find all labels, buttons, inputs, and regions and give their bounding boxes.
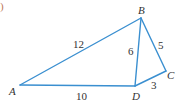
edge-AB	[20, 18, 141, 85]
length-label-BD: 6	[128, 45, 134, 57]
length-label-AD: 10	[76, 90, 88, 102]
vertex-label-B: B	[138, 4, 145, 16]
vertex-label-D: D	[131, 90, 140, 102]
length-label-DC: 3	[151, 79, 157, 91]
vertex-label-A: A	[8, 85, 16, 97]
part-marker: )	[0, 0, 4, 13]
length-label-BC: 5	[158, 39, 164, 51]
edge-AD	[20, 85, 135, 86]
triangle-figure: ) 12 6 5 10 3 B A C D	[0, 0, 179, 102]
vertex-label-C: C	[167, 69, 175, 81]
edge-BD	[135, 18, 141, 86]
length-label-AB: 12	[73, 38, 84, 50]
